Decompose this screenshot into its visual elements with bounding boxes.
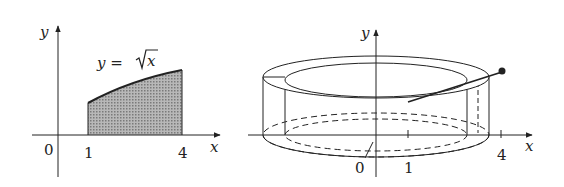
- left-graph: y x 0 1 4 y = x: [32, 23, 220, 177]
- tick-label-4: 4: [178, 144, 188, 162]
- right-graph: [248, 30, 532, 177]
- x-axis-label: x: [210, 138, 219, 156]
- origin-label-right: 0: [355, 159, 365, 177]
- curve-label-radicand: x: [147, 52, 156, 70]
- rod-end-dot: [499, 68, 506, 75]
- curve-label-prefix: y =: [96, 54, 128, 72]
- shaded-region: [88, 70, 182, 135]
- tick-label-4-right: 4: [497, 146, 507, 164]
- curve-label: y = x: [96, 50, 158, 72]
- origin-pointer: [365, 142, 373, 158]
- tick-label-1: 1: [84, 144, 94, 162]
- tick-label-1-right: 1: [404, 159, 414, 177]
- origin-label: 0: [44, 141, 54, 159]
- y-axis-label: y: [39, 23, 49, 41]
- figure-canvas: y x 0 1 4 y = x: [0, 0, 564, 187]
- y-axis-label-right: y: [360, 24, 370, 42]
- x-axis-label-right: x: [525, 137, 534, 155]
